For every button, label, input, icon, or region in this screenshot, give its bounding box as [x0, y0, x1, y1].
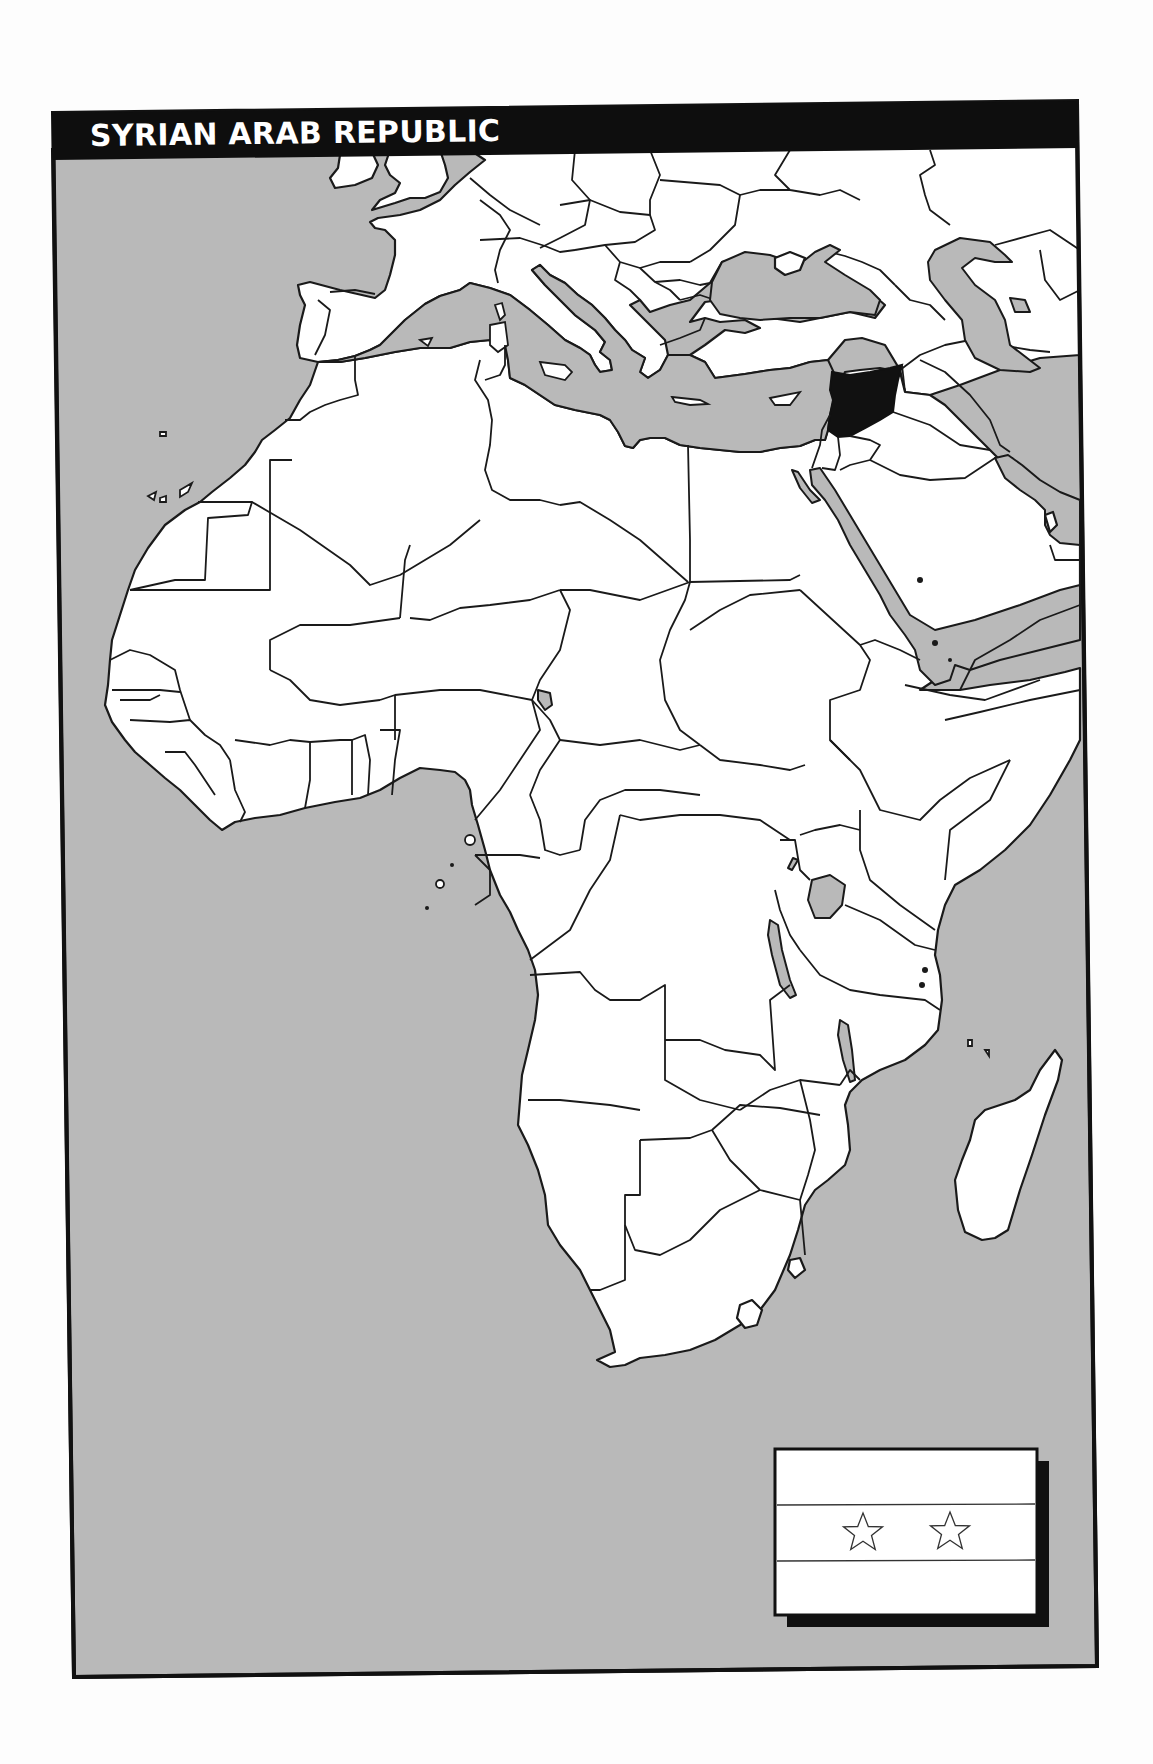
flag-syria: [775, 1449, 1037, 1615]
zanzibar: [922, 967, 928, 973]
flag-inset: [775, 1449, 1049, 1627]
annobon: [425, 906, 429, 910]
red-sea-island: [932, 640, 938, 646]
page-title: SYRIAN ARAB REPUBLIC: [90, 108, 610, 158]
principe: [450, 863, 454, 867]
bioko: [465, 835, 475, 845]
red-sea-island: [917, 577, 923, 583]
map-page: SYRIAN ARAB REPUBLIC: [0, 0, 1153, 1764]
madeira: [160, 432, 166, 436]
map-figure: [0, 0, 1153, 1764]
red-sea-island: [948, 658, 952, 662]
sao-tome: [436, 880, 444, 888]
pemba: [919, 982, 925, 988]
